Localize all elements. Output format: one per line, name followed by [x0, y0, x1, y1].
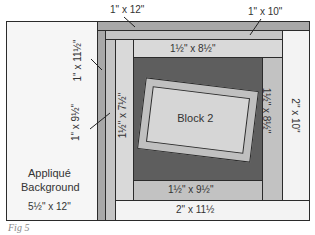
leader-1x10	[250, 19, 261, 35]
leader-lines	[0, 0, 315, 235]
leader-1x11-5	[91, 59, 102, 70]
figure-caption: Fig 5	[8, 222, 29, 233]
leader-1x12	[124, 17, 135, 27]
leader-1x9-5	[90, 113, 110, 129]
